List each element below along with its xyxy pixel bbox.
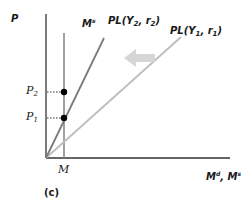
y-axis-label: P <box>11 13 18 24</box>
money-supply-label-main: M <box>82 18 92 29</box>
x-axis-label-main2: M <box>228 171 238 182</box>
tick-sub: 2 <box>33 90 37 98</box>
x-axis-label-sep: , <box>220 171 227 182</box>
money-supply-label: Ms <box>82 17 96 29</box>
curve-label-prefix: PL(Y <box>170 25 196 36</box>
curve-label-mid: , r <box>200 25 212 36</box>
curve-label-mid: , r <box>138 15 150 26</box>
curve-label-prefix: PL(Y <box>108 15 134 26</box>
panel-label: (c) <box>44 187 59 198</box>
equilibrium-dot-p1 <box>61 115 67 121</box>
money-supply-label-sup: s <box>92 17 96 24</box>
x-axis-label: Md, Ms <box>206 170 241 182</box>
y-tick-label-p1: P1 <box>26 110 38 124</box>
x-tick-label-m: M <box>58 163 69 176</box>
curve-label-pl-y1-r1: PL(Y1, r1) <box>170 25 222 38</box>
curve-label-pl-y2-r2: PL(Y2, r2) <box>108 15 160 28</box>
curve-pl-y1-r1 <box>46 37 181 158</box>
tick-sub: 1 <box>33 116 37 124</box>
curve-pl-y2-r2 <box>46 38 104 158</box>
y-tick-label-p2: P2 <box>26 84 38 98</box>
x-axis-label-main: M <box>206 171 216 182</box>
equilibrium-dot-p2 <box>61 89 67 95</box>
curve-label-suffix: ) <box>217 25 222 36</box>
curve-label-suffix: ) <box>155 15 160 26</box>
x-axis-label-sup2: s <box>237 170 241 177</box>
